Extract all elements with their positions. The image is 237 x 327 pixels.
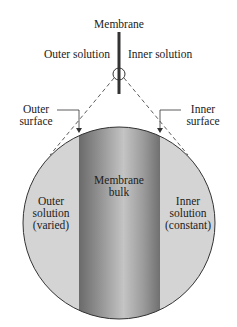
outer-surface-label-2: surface xyxy=(19,115,52,127)
inner-surface-label-1: Inner xyxy=(191,103,215,115)
membrane-bulk-label-2: bulk xyxy=(109,186,130,198)
outer-solution-label-3: (varied) xyxy=(33,219,70,232)
outer-surface-label-1: Outer xyxy=(23,103,49,115)
membrane-label: Membrane xyxy=(94,18,144,30)
inner-surface-label-2: surface xyxy=(186,115,219,127)
inner-solution-top-label: Inner solution xyxy=(128,48,192,60)
inner-solution-label-1: Inner xyxy=(176,195,200,207)
outer-surface-arrow-icon xyxy=(76,128,82,133)
outer-solution-label-1: Outer xyxy=(38,195,64,207)
inner-surface-arrow-icon xyxy=(157,128,163,133)
inner-solution-label-3: (constant) xyxy=(165,219,211,232)
inner-solution-label-2: solution xyxy=(169,207,206,219)
outer-solution-label-2: solution xyxy=(32,207,69,219)
membrane-bulk-region xyxy=(79,125,160,325)
membrane-bulk-label-1: Membrane xyxy=(94,174,144,186)
outer-surface-leader xyxy=(57,110,79,131)
outer-solution-top-label: Outer solution xyxy=(44,48,110,60)
inner-surface-leader xyxy=(160,110,181,131)
membrane-diagram: Membrane Outer solution Inner solution O… xyxy=(0,0,237,327)
